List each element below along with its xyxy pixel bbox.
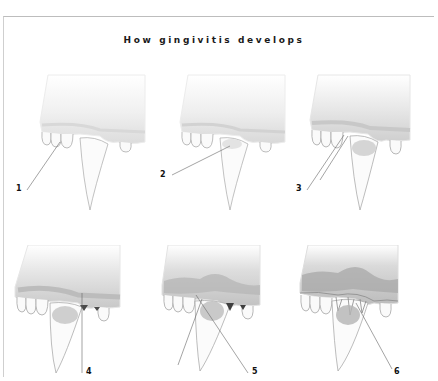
stage-number: 2 xyxy=(160,170,166,179)
stage-5-panel: 5 xyxy=(160,245,300,381)
tooth-gum-illustration xyxy=(160,245,300,381)
stage-3-panel: 3 xyxy=(300,70,438,220)
stage-number: 3 xyxy=(296,184,302,193)
stage-number: 6 xyxy=(394,367,400,376)
tooth-gum-illustration xyxy=(20,70,160,220)
stage-2-panel: 2 xyxy=(160,70,300,220)
stage-6-panel: 6 xyxy=(298,245,438,381)
tooth-gum-illustration xyxy=(298,245,438,381)
stage-4-panel: 4 xyxy=(10,245,150,381)
tooth-gum-illustration xyxy=(160,70,300,220)
stage-1-panel: 1 xyxy=(20,70,160,220)
tooth-gum-illustration xyxy=(10,245,150,381)
stage-number: 4 xyxy=(86,367,92,376)
stage-number: 1 xyxy=(16,184,22,193)
tooth-gum-illustration xyxy=(300,70,438,220)
stage-number: 5 xyxy=(252,367,258,376)
figure-title: How gingivitis develops xyxy=(0,35,428,45)
